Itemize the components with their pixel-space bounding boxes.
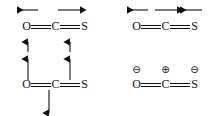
atom-sulfur: S — [80, 78, 89, 90]
bond-oxygen-carbon — [141, 79, 161, 91]
bond-carbon-sulfur — [170, 79, 190, 91]
molecule-formula-top-right: OCS — [132, 20, 199, 33]
panel-charge-distribution: ⊖⊕⊖ OCS — [107, 58, 215, 116]
panel-asymmetric-stretch-mode: OCS — [0, 0, 107, 58]
atom-oxygen: O — [132, 20, 141, 32]
atom-oxygen: O — [22, 78, 31, 90]
negative-charge-on-oxygen: ⊖ — [132, 65, 141, 75]
panel-bending-mode: OCS — [0, 58, 107, 116]
molecule-formula-bottom-left: OCS — [22, 78, 89, 91]
atom-sulfur: S — [190, 20, 199, 32]
bond-oxygen-carbon — [31, 79, 51, 91]
atom-carbon: C — [161, 78, 170, 90]
bond-oxygen-carbon — [141, 21, 161, 33]
atom-oxygen: O — [22, 20, 31, 32]
positive-charge-on-carbon: ⊕ — [161, 65, 170, 75]
atom-carbon: C — [51, 78, 60, 90]
bond-carbon-sulfur — [60, 21, 80, 33]
atom-oxygen: O — [132, 78, 141, 90]
bond-oxygen-carbon — [31, 21, 51, 33]
negative-charge-on-sulfur: ⊖ — [190, 65, 199, 75]
atom-carbon: C — [51, 20, 60, 32]
molecule-formula-bottom-right: OCS — [132, 78, 199, 91]
atom-sulfur: S — [190, 78, 199, 90]
molecule-formula-top-left: OCS — [22, 20, 89, 33]
atom-sulfur: S — [80, 20, 89, 32]
panel-stretch-mode-opposed: OCS — [107, 0, 215, 58]
ocs-vibrational-modes-figure: OCS OCS — [0, 0, 215, 116]
bond-carbon-sulfur — [170, 21, 190, 33]
atom-carbon: C — [161, 20, 170, 32]
bond-carbon-sulfur — [60, 79, 80, 91]
charge-row: ⊖⊕⊖ — [132, 65, 199, 75]
